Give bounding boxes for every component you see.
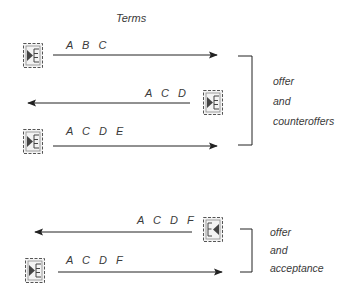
group-line: offer [273, 71, 334, 91]
group-line: and [273, 91, 334, 111]
group-line: counteroffers [273, 111, 334, 131]
terms-label: A B C [66, 39, 107, 51]
group-line: offer [270, 223, 324, 241]
document-send-icon [26, 259, 45, 283]
group-description-acceptance: offer and acceptance [270, 223, 324, 277]
group-line: acceptance [270, 259, 324, 277]
terms-label: A C D F [137, 214, 194, 226]
group-bracket [240, 229, 252, 272]
document-send-icon [24, 44, 43, 68]
terms-label: A C D E [66, 125, 124, 137]
terms-label: A C D [145, 87, 186, 99]
document-send-icon [24, 130, 43, 154]
group-bracket [238, 56, 252, 145]
document-receive-icon [204, 218, 223, 242]
terms-label: A C D F [66, 254, 123, 266]
group-description-counteroffers: offer and counteroffers [273, 71, 334, 131]
document-send-icon [204, 91, 223, 115]
group-line: and [270, 241, 324, 259]
